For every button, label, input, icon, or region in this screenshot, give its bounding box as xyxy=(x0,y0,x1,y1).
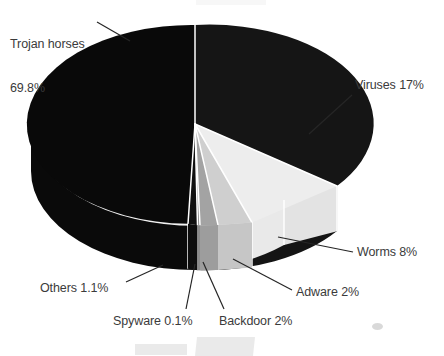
leader-line-spyware xyxy=(186,264,195,309)
slice-label-spyware: Spyware 0.1% xyxy=(113,314,192,329)
pie-chart-figure: Trojan horses 69.8% Viruses 17% Worms 8%… xyxy=(0,0,444,356)
scan-artifact-bottom-left xyxy=(135,344,187,355)
side-wall-others xyxy=(188,224,198,270)
slice-label-viruses: Viruses 17% xyxy=(355,78,424,93)
slice-label-worms: Worms 8% xyxy=(357,245,417,260)
slice-label-trojan-horses: Trojan horses 69.8% xyxy=(10,8,85,124)
slice-label-trojan-horses-line1: Trojan horses xyxy=(10,37,85,52)
side-wall-spyware xyxy=(198,225,201,270)
leader-line-others xyxy=(126,265,163,282)
side-wall-adware xyxy=(218,223,252,270)
slice-label-backdoor: Backdoor 2% xyxy=(219,314,292,329)
slice-label-trojan-horses-line2: 69.8% xyxy=(10,81,85,96)
scan-artifact-top xyxy=(196,0,266,5)
slice-label-adware: Adware 2% xyxy=(296,285,359,300)
scan-artifact-bottom-mid xyxy=(195,337,255,356)
thin-slice-front-walls xyxy=(188,223,252,271)
side-wall-backdoor xyxy=(200,225,218,270)
scan-artifact-speck xyxy=(372,323,383,330)
slice-label-others: Others 1.1% xyxy=(40,281,108,296)
